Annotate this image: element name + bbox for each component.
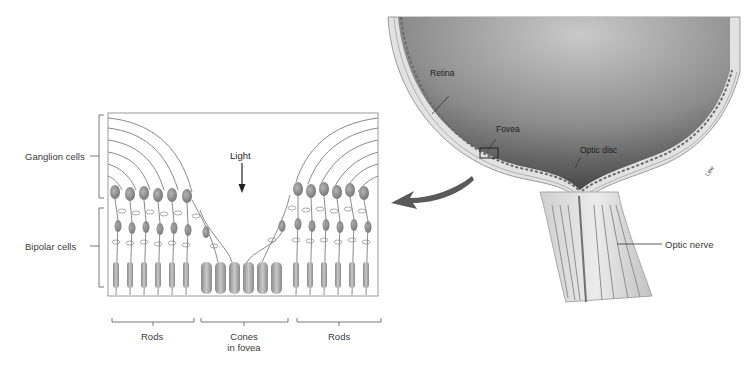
- label-light: Light: [230, 150, 251, 161]
- label-bipolar-cells: Bipolar cells: [25, 241, 76, 252]
- label-cones: Cones in fovea: [226, 331, 262, 353]
- label-fovea: Fovea: [496, 124, 520, 135]
- label-retina: Retina: [430, 68, 455, 79]
- eye-cross-section: [388, 17, 740, 302]
- label-optic-nerve: Optic nerve: [665, 239, 714, 250]
- retina-detail-panel: [90, 113, 381, 326]
- label-cones-line2: in fovea: [226, 342, 262, 353]
- label-rods-left: Rods: [141, 331, 163, 342]
- label-ganglion-cells: Ganglion cells: [25, 151, 85, 162]
- label-optic-disc: Optic disc: [580, 145, 617, 156]
- zoom-arrow-icon: [391, 176, 474, 209]
- diagram-canvas: [0, 0, 750, 365]
- label-rods-right: Rods: [328, 331, 350, 342]
- figure: Ganglion cells Bipolar cells Light Rods …: [0, 0, 750, 365]
- label-cones-line1: Cones: [226, 331, 262, 342]
